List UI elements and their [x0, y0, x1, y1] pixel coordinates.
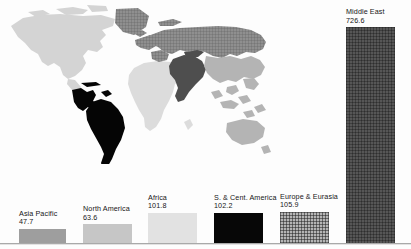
bar-africa[interactable]	[148, 213, 197, 243]
bar-label-value: 102.2	[214, 202, 277, 211]
bar-label-name: North America	[83, 204, 130, 213]
bar-label-asia-pacific: Asia Pacific47.7	[19, 210, 57, 227]
bar-s-cent-america[interactable]	[214, 213, 263, 243]
axis-baseline-shadow	[0, 244, 411, 245]
map-region-north-america	[11, 5, 115, 104]
bar-label-europe-eurasia: Europe & Eurasia105.9	[280, 193, 338, 210]
bar-middle-east[interactable]	[346, 27, 395, 243]
world-map-svg	[8, 4, 274, 164]
bar-label-africa: Africa101.8	[148, 194, 167, 211]
map-region-south-central-america	[72, 82, 125, 164]
map-region-asia-pacific	[204, 56, 271, 154]
map-region-greenland	[115, 8, 149, 35]
bar-label-value: 726.6	[346, 17, 385, 26]
bar-label-middle-east: Middle East726.6	[346, 8, 385, 25]
bar-label-north-america: North America63.6	[83, 205, 130, 222]
bar-label-value: 63.6	[83, 214, 130, 223]
map-region-middle-east	[169, 49, 206, 102]
bar-label-name: Middle East	[346, 7, 385, 16]
bar-label-value: 47.7	[19, 218, 57, 227]
bar-label-s-cent-america: S. & Cent. America102.2	[214, 194, 277, 211]
bar-asia-pacific[interactable]	[19, 229, 66, 243]
bar-label-value: 101.8	[148, 202, 167, 211]
bar-label-value: 105.9	[280, 201, 338, 210]
bar-europe-eurasia[interactable]	[280, 212, 329, 243]
chart-canvas: Asia Pacific47.7North America63.6Africa1…	[0, 0, 411, 249]
bar-north-america[interactable]	[83, 224, 132, 243]
